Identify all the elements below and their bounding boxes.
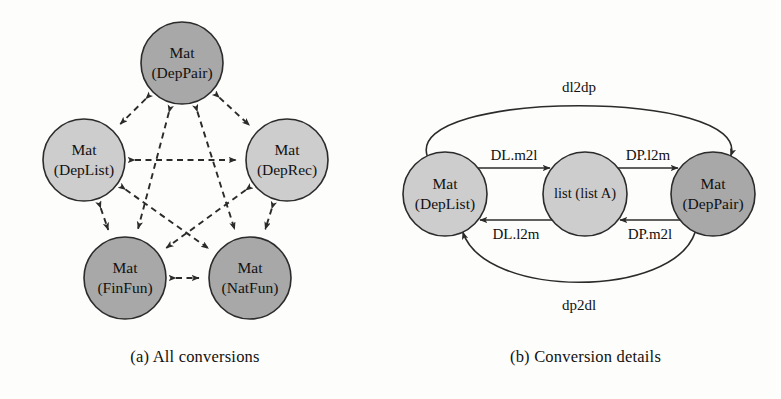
node-deprec[interactable]: Mat(DepRec)	[246, 119, 328, 201]
node-label-b-deplist-line2: (DepList)	[415, 195, 475, 213]
node-label-deplist-line2: (DepList)	[54, 161, 114, 179]
node-label-b-deplist-line1: Mat	[433, 175, 459, 192]
node-label-deppair-line2: (DepPair)	[151, 64, 212, 82]
node-b-list[interactable]: list (list A)	[543, 152, 627, 236]
node-layer-a: Mat(DepPair)Mat(DepList)Mat(DepRec)Mat(F…	[43, 22, 328, 319]
edge-dl2dp	[426, 106, 732, 156]
node-label-deprec-line1: Mat	[275, 141, 301, 158]
diagram-all-conversions: Mat(DepPair)Mat(DepList)Mat(DepRec)Mat(F…	[0, 0, 390, 345]
node-label-b-deppair-line2: (DepPair)	[682, 195, 743, 213]
edge-deppair-deplist	[120, 99, 146, 124]
node-label-natfun-line2: (NatFun)	[222, 279, 279, 297]
node-label-natfun-line1: Mat	[238, 259, 264, 276]
edge-label-dp-l2m: DP.l2m	[626, 147, 671, 163]
edge-deppair-finfun	[138, 112, 169, 228]
edge-deprec-natfun	[265, 209, 271, 230]
figure-conversions: Mat(DepPair)Mat(DepList)Mat(DepRec)Mat(F…	[0, 0, 781, 399]
edge-deppair-deprec	[219, 98, 249, 126]
node-label-b-list: list (list A)	[554, 185, 616, 202]
node-deppair[interactable]: Mat(DepPair)	[141, 22, 223, 104]
node-deplist[interactable]: Mat(DepList)	[43, 119, 125, 201]
node-layer-b: Mat(DepList)list (list A)Mat(DepPair)	[403, 152, 755, 236]
edge-label-dl2dp: dl2dp	[562, 79, 596, 95]
caption-panel-b: (b) Conversion details	[390, 347, 781, 367]
node-label-finfun-line1: Mat	[113, 259, 139, 276]
panel-all-conversions: Mat(DepPair)Mat(DepList)Mat(DepRec)Mat(F…	[0, 0, 390, 399]
node-natfun[interactable]: Mat(NatFun)	[209, 237, 291, 319]
edge-deplist-finfun	[101, 208, 109, 230]
node-label-deppair-line1: Mat	[170, 44, 196, 61]
edge-label-dp-m2l: DP.m2l	[628, 226, 673, 242]
edge-deprec-finfun	[166, 190, 246, 248]
edge-label-dl-m2l: DL.m2l	[490, 147, 537, 163]
node-label-finfun-line2: (FinFun)	[97, 279, 152, 297]
node-label-deplist-line1: Mat	[72, 141, 98, 158]
node-label-b-deppair-line1: Mat	[701, 175, 727, 192]
node-label-deprec-line2: (DepRec)	[257, 161, 317, 179]
diagram-conversion-details: Mat(DepList)list (list A)Mat(DepPair) DL…	[390, 0, 781, 345]
panel-conversion-details: Mat(DepList)list (list A)Mat(DepPair) DL…	[390, 0, 781, 399]
edge-label-dp2dl: dp2dl	[562, 297, 596, 313]
node-b-deplist[interactable]: Mat(DepList)	[403, 152, 487, 236]
edge-label-dl-l2m: DL.l2m	[492, 226, 539, 242]
node-finfun[interactable]: Mat(FinFun)	[84, 237, 166, 319]
node-b-deppair[interactable]: Mat(DepPair)	[671, 152, 755, 236]
caption-panel-a: (a) All conversions	[0, 347, 390, 367]
